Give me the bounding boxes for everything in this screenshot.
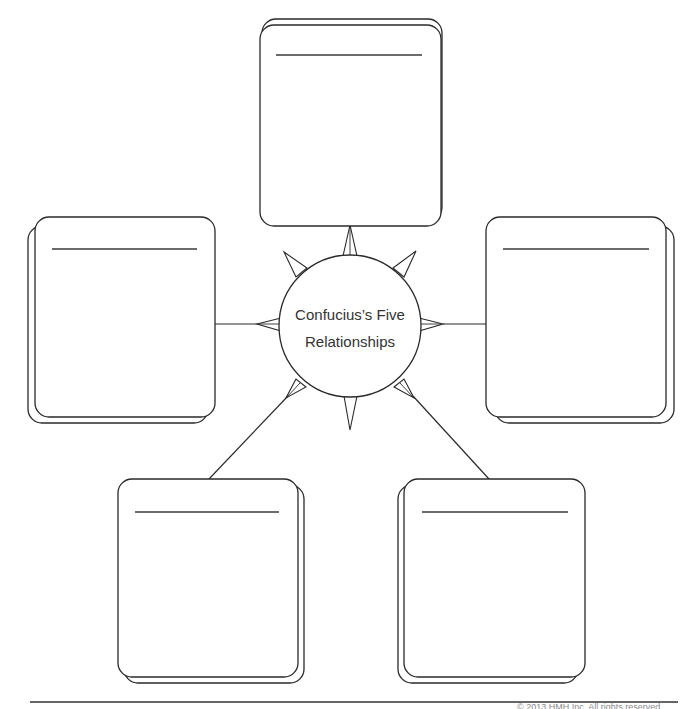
box-left-body-input[interactable] [43,256,211,414]
box-bottom-left-body-input[interactable] [126,519,294,673]
connector-bottom-right [413,396,489,479]
box-right-body-input[interactable] [494,256,662,414]
spike-left [257,318,281,331]
box-bottom-right-title-input[interactable] [422,495,572,513]
center-hub-circle [279,255,421,397]
center-title-line-1: Confucius’s Five [295,306,405,323]
box-top-body-input[interactable] [268,62,436,222]
connector-bottom-left [209,396,288,479]
copyright-text: © 2013 HMH Inc. All rights reserved. [517,703,663,709]
spike-bottom [344,396,357,430]
box-right-title-input[interactable] [503,232,653,250]
box-bottom-right-body-input[interactable] [412,519,581,673]
box-top-title-input[interactable] [276,38,426,56]
spike-right [419,318,443,331]
center-title-line-2: Relationships [305,333,395,350]
box-left-title-input[interactable] [52,232,201,250]
box-bottom-left-title-input[interactable] [135,495,283,513]
